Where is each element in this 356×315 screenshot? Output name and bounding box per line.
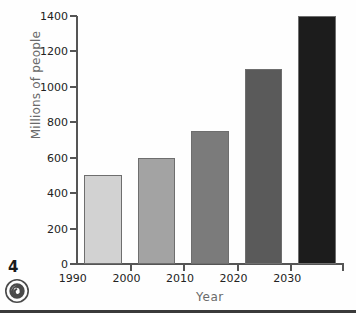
- bar-2000: [138, 158, 176, 264]
- x-axis-tick: [342, 265, 344, 271]
- x-axis-tick: [130, 265, 132, 271]
- x-axis-title: Year: [76, 290, 344, 304]
- y-axis-title: Millions of people: [29, 5, 43, 165]
- bottom-divider: [0, 310, 356, 313]
- x-axis-tick: [290, 265, 292, 271]
- x-axis-tick: [237, 265, 239, 271]
- y-axis-tick: [70, 50, 77, 52]
- page-number: 4: [8, 258, 18, 276]
- y-axis-tick: [70, 263, 77, 265]
- x-axis-tick-label: 2030: [257, 272, 317, 285]
- y-axis-tick: [70, 86, 77, 88]
- bar-1990: [84, 175, 122, 264]
- x-axis-tick-label: 1990: [43, 272, 103, 285]
- spiral-icon: [4, 278, 30, 304]
- bar-2010: [191, 131, 229, 264]
- y-axis-tick: [70, 121, 77, 123]
- y-axis-tick: [70, 15, 77, 17]
- y-axis-tick: [70, 157, 77, 159]
- y-axis-tick: [70, 228, 77, 230]
- y-axis-tick-label: 0: [28, 258, 68, 271]
- x-axis-tick-label: 2010: [150, 272, 210, 285]
- y-axis-tick-label: 200: [28, 222, 68, 235]
- x-axis-tick-label: 2020: [204, 272, 264, 285]
- x-axis-tick: [183, 265, 185, 271]
- bar-2020: [245, 69, 283, 264]
- figure-container: 0200400600800100012001400 19902000201020…: [0, 0, 356, 315]
- x-axis-tick-label: 2000: [96, 272, 156, 285]
- y-axis-tick: [70, 192, 77, 194]
- bar-2030: [298, 16, 336, 264]
- bars-layer: [78, 16, 344, 264]
- y-axis-tick-label: 400: [28, 187, 68, 200]
